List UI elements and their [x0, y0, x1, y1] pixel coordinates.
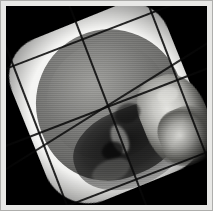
skull-anatomy-group — [6, 6, 207, 205]
image-frame — [0, 0, 213, 211]
radiograph-film — [6, 6, 207, 205]
